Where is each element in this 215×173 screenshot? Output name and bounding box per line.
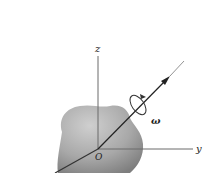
y-axis-label: y (195, 143, 202, 154)
rotation-arrow-icon (140, 94, 146, 99)
rotation-direction-icon (127, 93, 149, 118)
origin-label: O (95, 152, 103, 162)
rotation-axis-extension (170, 61, 184, 76)
z-axis-label: z (94, 43, 101, 54)
rigid-body-diagram: z y O ω (0, 0, 215, 173)
omega-label: ω (151, 115, 161, 126)
